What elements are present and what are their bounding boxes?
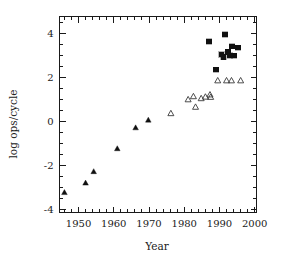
y-axis-title: log ops/cycle (7, 90, 19, 159)
data-point-triangle-filled (91, 169, 97, 174)
data-point-triangle-filled (146, 117, 152, 122)
data-point-triangle-filled (83, 180, 89, 185)
x-tick-label: 2000 (242, 218, 267, 229)
data-point-triangle-open (228, 77, 234, 82)
data-point-square (235, 45, 240, 50)
x-tick-label: 1980 (172, 218, 197, 229)
data-point-layer (62, 32, 244, 195)
series-filled-square (206, 32, 240, 73)
data-point-square (206, 39, 211, 44)
data-point-triangle-filled (133, 125, 139, 130)
scatter-chart: 195019601970198019902000 -4-2024 Year lo… (0, 0, 286, 258)
data-point-triangle-open (215, 77, 221, 82)
y-tick-label: 0 (47, 116, 53, 127)
data-point-square (231, 53, 236, 58)
data-point-square (213, 67, 218, 72)
data-point-square (229, 44, 234, 49)
y-tick-label: 4 (47, 28, 53, 39)
y-tick-label: -4 (44, 204, 54, 215)
data-point-triangle-filled (114, 146, 120, 151)
x-tick-label: 1990 (207, 218, 232, 229)
data-point-triangle-open (168, 110, 174, 115)
series-filled-triangle (62, 117, 151, 194)
x-axis-tick-labels: 195019601970198019902000 (66, 218, 268, 229)
chart-canvas: 195019601970198019902000 -4-2024 Year lo… (0, 0, 286, 258)
series-open-triangle (168, 77, 244, 115)
data-point-triangle-open (190, 93, 196, 98)
y-tick-label: -2 (44, 160, 54, 171)
y-axis-tick-labels: -4-2024 (44, 28, 54, 215)
x-axis-title: Year (144, 240, 169, 252)
plot-border (60, 17, 257, 213)
data-point-triangle-open (193, 104, 199, 109)
data-point-square (222, 32, 227, 37)
data-point-triangle-filled (62, 190, 68, 195)
y-tick-label: 2 (47, 72, 53, 83)
data-point-square (221, 54, 226, 59)
x-axis-ticks (64, 17, 254, 213)
plot-frame (60, 17, 257, 213)
data-point-triangle-open (238, 77, 244, 82)
x-tick-label: 1960 (101, 218, 126, 229)
x-tick-label: 1950 (66, 218, 91, 229)
x-tick-label: 1970 (136, 218, 161, 229)
